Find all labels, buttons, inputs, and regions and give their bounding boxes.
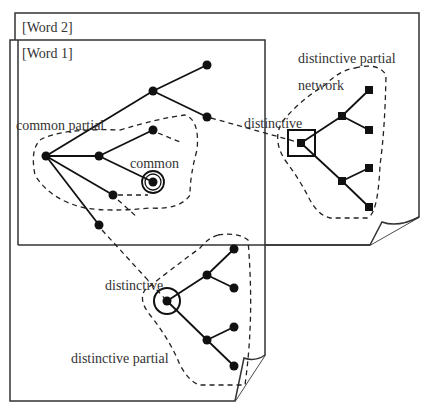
word1-page: [Word 1] [10,40,265,401]
node [230,323,239,332]
node [163,297,172,306]
node [230,284,239,293]
distinctive-partial-network-label-line1: distinctive partial [298,51,396,66]
distinctive-upper-label: distinctive [244,116,302,131]
node [203,271,212,280]
square-node [365,86,373,94]
node [230,362,239,371]
square-node [297,139,305,147]
square-node [365,164,373,172]
node [203,113,212,122]
common-label: common [130,156,179,171]
node [230,245,239,254]
word1-page-outline [10,40,265,401]
node [95,152,104,161]
node [149,87,158,96]
distinctive-lower-label: distinctive [105,278,163,293]
node [95,221,104,230]
node [203,61,212,70]
square-node [365,203,373,211]
word1-label: [Word 1] [22,46,73,61]
distinctive-partial-lower-label: distinctive partial [71,351,169,366]
common-partial-label: common partial [16,118,104,133]
square-node [338,177,346,185]
node [42,152,51,161]
word2-label: [Word 2] [22,20,73,35]
node [149,126,158,135]
common-node [149,178,158,187]
node [203,336,212,345]
node [109,191,118,200]
word-network-diagram: [Word 2] [Word 1] common pa [0,0,428,416]
square-node [338,112,346,120]
square-node [365,126,373,134]
distinctive-partial-network-label-line2: network [298,78,344,93]
